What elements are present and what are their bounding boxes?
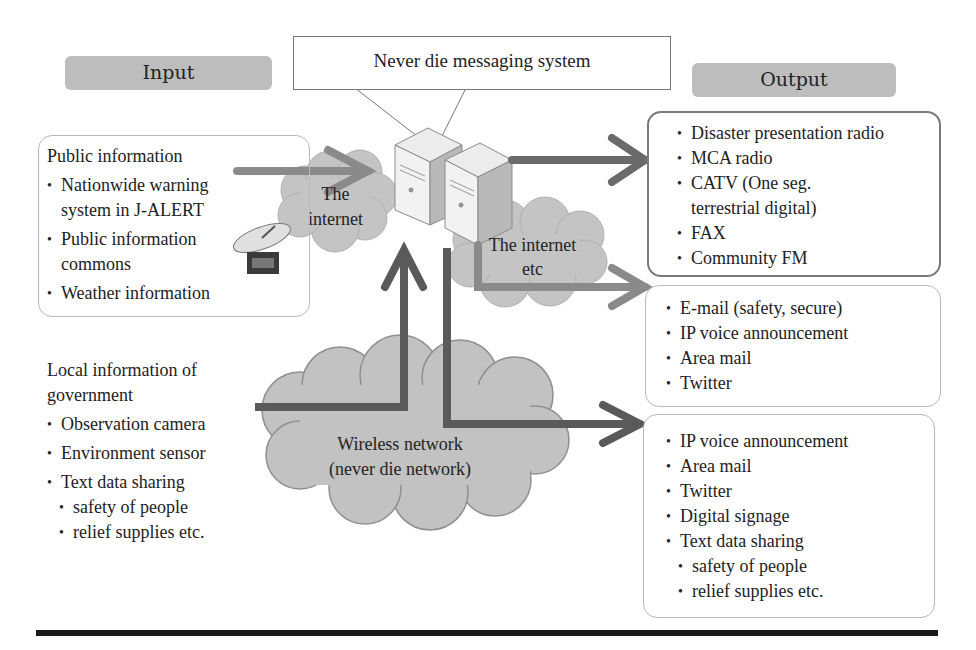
list-item: IP voice announcement [666, 429, 934, 454]
list-item: FAX [677, 221, 939, 246]
sub-list-item: relief supplies etc. [47, 520, 267, 545]
list-item: Environment sensor [47, 441, 267, 466]
list-item: Community FM [677, 246, 939, 271]
list-item: Area mail [666, 454, 934, 479]
list-item: Twitter [666, 371, 940, 396]
list-item: IP voice announcement [666, 321, 940, 346]
list-item: Area mail [666, 346, 940, 371]
local-info-list: Observation camera Environment sensor Te… [47, 412, 267, 545]
input-header: Input [65, 56, 272, 90]
sub-list-item: safety of people [47, 495, 267, 520]
local-info-title: Local information of government [47, 358, 267, 408]
list-item: CATV (One seg. terrestrial digital) [677, 171, 939, 221]
list-item: Text data sharing [666, 529, 934, 554]
list-item: MCA radio [677, 146, 939, 171]
list-item: Twitter [666, 479, 934, 504]
sub-list-item: safety of people [666, 554, 934, 579]
server-icon [395, 128, 512, 245]
system-title-callout: Never die messaging system [293, 36, 671, 90]
output-box-wireless: IP voice announcement Area mail Twitter … [643, 414, 935, 618]
list-item: Observation camera [47, 412, 267, 437]
arrow-server-to-output1 [512, 138, 645, 182]
list-item: Text data sharing [47, 470, 267, 495]
cloud-wireless-label: Wireless network (never die network) [295, 432, 505, 482]
public-info-box: Public information Nationwide warning sy… [38, 135, 310, 317]
output-box-messaging: E-mail (safety, secure) IP voice announc… [645, 285, 941, 407]
cloud-internet-right-label: The internet etc [475, 233, 590, 281]
sub-list-item: relief supplies etc. [666, 579, 934, 604]
callout-pointers [355, 88, 465, 140]
list-item: Digital signage [666, 504, 934, 529]
list-item: Nationwide warning system in J-ALERT [47, 173, 309, 223]
list-item: Weather information [47, 281, 309, 306]
system-title: Never die messaging system [374, 50, 591, 71]
public-info-list: Nationwide warning system in J-ALERT Pub… [47, 173, 309, 306]
public-info-title: Public information [47, 144, 309, 169]
local-info-block: Local information of government Observat… [47, 358, 267, 545]
output-box-broadcast: Disaster presentation radio MCA radio CA… [647, 111, 941, 277]
bottom-rule [36, 630, 938, 636]
list-item: Disaster presentation radio [677, 121, 939, 146]
list-item: Public information commons [47, 227, 309, 277]
output-header: Output [692, 63, 896, 97]
list-item: E-mail (safety, secure) [666, 296, 940, 321]
